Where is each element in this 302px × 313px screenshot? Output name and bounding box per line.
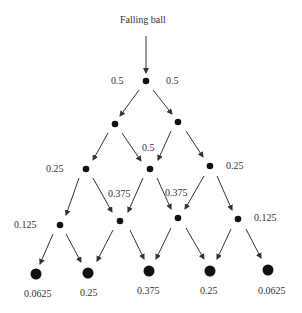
prob-label: 0.125 <box>14 220 37 230</box>
prob-label: 0.25 <box>226 161 244 171</box>
prob-label: 0.375 <box>165 188 188 198</box>
prob-label: 0.5 <box>142 143 155 153</box>
prob-label: 0.25 <box>46 164 64 174</box>
prob-label: 0.375 <box>108 189 131 199</box>
prob-label: 0.125 <box>254 213 277 223</box>
bins <box>31 265 274 280</box>
pegs <box>57 78 242 229</box>
bin-label: 0.375 <box>137 286 160 296</box>
diagram-title: Falling ball <box>120 15 166 25</box>
bin-label: 0.25 <box>200 286 218 296</box>
bin-label: 0.0625 <box>258 286 286 296</box>
prob-label: 0.5 <box>166 76 179 86</box>
prob-label: 0.5 <box>111 76 124 86</box>
bin-label: 0.25 <box>80 288 98 298</box>
bin-label: 0.0625 <box>24 289 52 299</box>
galton-board-diagram <box>0 0 302 313</box>
